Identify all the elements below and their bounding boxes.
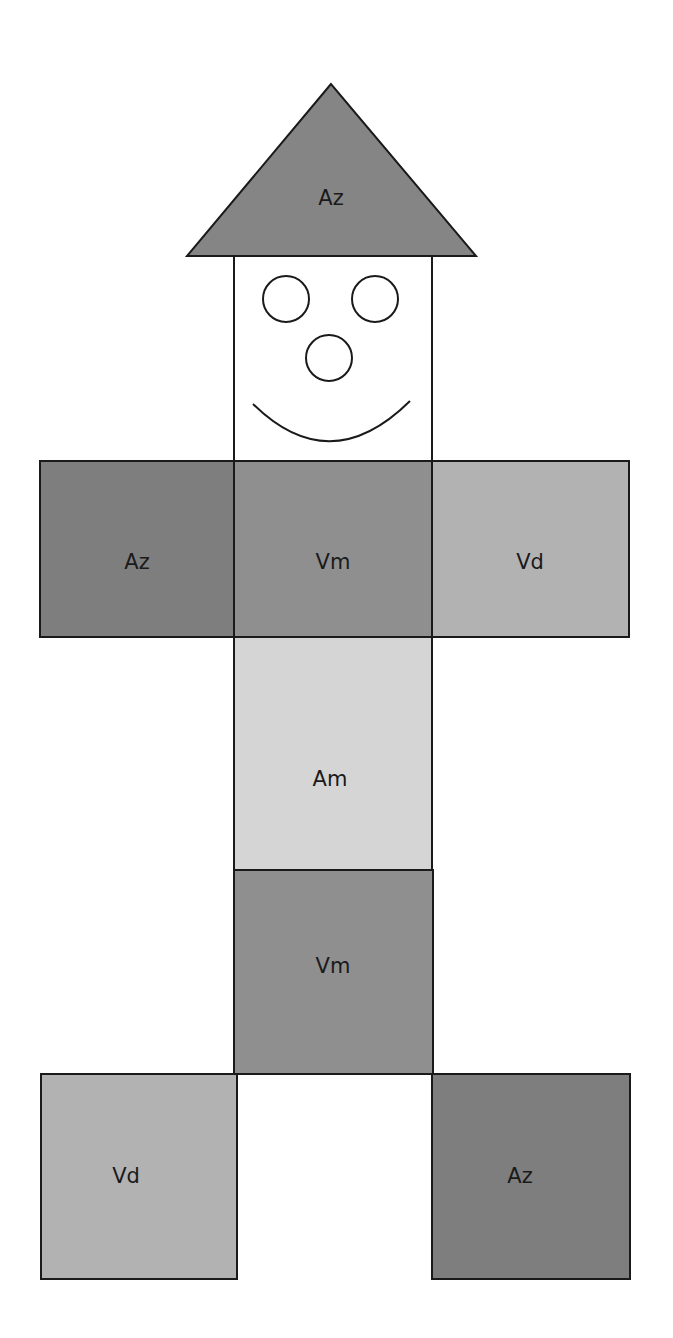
belly-square: Am [234, 637, 432, 870]
hips-square: Vm [234, 870, 433, 1074]
hat-label: Az [318, 186, 343, 210]
left-foot-square: Vd [41, 1074, 237, 1279]
left-foot-label: Vd [112, 1164, 140, 1188]
face-square [234, 256, 432, 461]
belly-label: Am [313, 767, 348, 791]
left-arm-label: Az [124, 550, 149, 574]
right-foot-label: Az [507, 1164, 532, 1188]
torso-label: Vm [316, 550, 351, 574]
left-arm-square: Az [40, 461, 234, 637]
right-arm-label: Vd [516, 550, 544, 574]
robot-figure: Az Az Vm Vd Am Vm Vd Az [0, 0, 673, 1338]
right-foot-square: Az [432, 1074, 630, 1279]
hips-label: Vm [316, 954, 351, 978]
hat-triangle: Az [187, 84, 476, 256]
right-arm-square: Vd [432, 461, 629, 637]
torso-square: Vm [234, 461, 432, 637]
